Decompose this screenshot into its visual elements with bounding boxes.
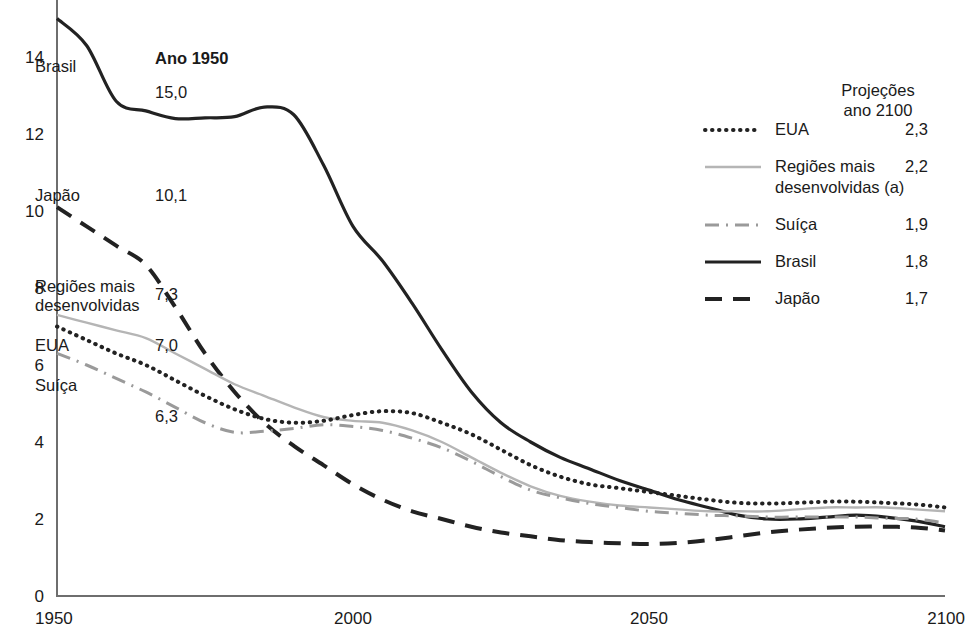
legend-header-line1: Projeções (841, 81, 914, 99)
year-column-header: Ano 1950 (155, 49, 228, 67)
legend-label: Brasil (775, 252, 816, 270)
y-tick-10: 10 (25, 202, 44, 221)
y-tick-12: 12 (25, 125, 44, 144)
legend-label: EUA (775, 120, 809, 138)
x-tick-1950: 1950 (35, 609, 73, 628)
data-series-group (57, 19, 945, 545)
legend-item-brasil[interactable]: Brasil1,8 (705, 252, 928, 270)
legend-label: Suíça (775, 215, 818, 233)
series-value-1950-brasil: 15,0 (155, 83, 187, 101)
series-left-label-japao: Japão (35, 186, 80, 204)
series-value-1950-suica: 6,3 (155, 407, 178, 425)
series-left-label-regioes-line1: Regiões mais (35, 277, 135, 295)
legend-label-line2: desenvolvidas (a) (775, 178, 904, 196)
series-left-label-regioes-line2: desenvolvidas (35, 296, 140, 314)
legend-header-line2: ano 2100 (844, 101, 913, 119)
series-left-label-suica: Suíça (35, 376, 78, 394)
series-value-1950-regioes: 7,3 (155, 285, 178, 303)
legend-label: Japão (775, 289, 820, 307)
legend-projection-value: 2,2 (905, 157, 928, 175)
series-line-brasil (57, 19, 945, 527)
legend-item-su-a[interactable]: Suíça1,9 (705, 215, 928, 233)
legend-projection-value: 2,3 (905, 120, 928, 138)
x-axis-tick-labels: 1950200020502100 (35, 609, 965, 628)
legend-item-eua[interactable]: EUA2,3 (705, 120, 928, 138)
y-tick-4: 4 (35, 433, 44, 452)
legend-label-line1: Regiões mais (775, 157, 875, 175)
x-tick-2100: 2100 (927, 609, 965, 628)
x-tick-2000: 2000 (334, 609, 372, 628)
legend-item-regi-es-mais[interactable]: Regiões maisdesenvolvidas (a)2,2 (705, 157, 928, 196)
legend-item-jap-o[interactable]: Japão1,7 (705, 289, 928, 307)
legend-projection-value: 1,8 (905, 252, 928, 270)
series-value-1950-japao: 10,1 (155, 186, 187, 204)
x-tick-2050: 2050 (630, 609, 668, 628)
series-value-1950-eua: 7,0 (155, 336, 178, 354)
series-line-regi-es-mais-desenvolvidas-a (57, 315, 945, 511)
y-axis-tick-labels: 14121086420 (25, 48, 44, 606)
series-line-su-a (57, 353, 945, 522)
chart-container: 14121086420 1950200020502100 Ano 1950 Br… (0, 0, 966, 634)
series-line-eua (57, 327, 945, 508)
line-chart: 14121086420 1950200020502100 Ano 1950 Br… (0, 0, 966, 634)
chart-legend: Projeções ano 2100 EUA2,3Regiões maisdes… (705, 81, 928, 307)
y-tick-2: 2 (35, 510, 44, 529)
y-tick-6: 6 (35, 356, 44, 375)
series-left-label-brasil: Brasil (35, 57, 76, 75)
y-tick-0: 0 (35, 587, 44, 606)
legend-projection-value: 1,7 (905, 289, 928, 307)
legend-projection-value: 1,9 (905, 215, 928, 233)
legend-items: EUA2,3Regiões maisdesenvolvidas (a)2,2Su… (705, 120, 928, 307)
series-left-label-eua: EUA (35, 336, 69, 354)
